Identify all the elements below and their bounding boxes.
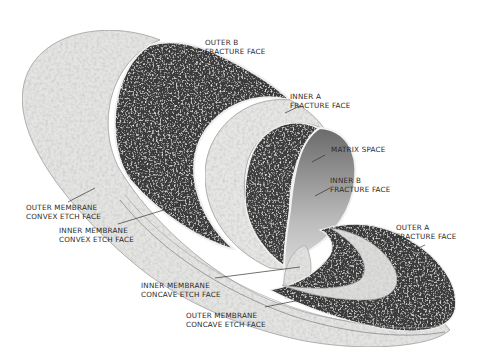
label-line: CONVEX ETCH FACE (26, 212, 101, 221)
label-line: OUTER MEMBRANE (186, 311, 266, 320)
label-inner-membrane-convex-etch-face: INNER MEMBRANE CONVEX ETCH FACE (59, 226, 134, 244)
label-line: CONVEX ETCH FACE (59, 235, 134, 244)
label-line: INNER B (330, 176, 391, 185)
label-line: FRACTURE FACE (290, 101, 351, 110)
label-outer-membrane-concave-etch-face: OUTER MEMBRANE CONCAVE ETCH FACE (186, 311, 266, 329)
label-line: OUTER MEMBRANE (26, 203, 101, 212)
label-line: FRACTURE FACE (330, 185, 391, 194)
label-line: OUTER A (396, 223, 457, 232)
label-line: INNER MEMBRANE (141, 281, 221, 290)
label-line: CONCAVE ETCH FACE (186, 320, 266, 329)
label-matrix-space: MATRIX SPACE (331, 145, 385, 154)
label-line: FRACTURE FACE (396, 232, 457, 241)
label-line: OUTER B (205, 38, 266, 47)
label-line: INNER MEMBRANE (59, 226, 134, 235)
label-outer-a-fracture-face: OUTER A FRACTURE FACE (396, 223, 457, 241)
label-inner-a-fracture-face: INNER A FRACTURE FACE (290, 92, 351, 110)
label-line: CONCAVE ETCH FACE (141, 290, 221, 299)
label-line: INNER A (290, 92, 351, 101)
label-line: MATRIX SPACE (331, 145, 385, 154)
label-line: FRACTURE FACE (205, 47, 266, 56)
label-outer-b-fracture-face: OUTER B FRACTURE FACE (205, 38, 266, 56)
label-inner-membrane-concave-etch-face: INNER MEMBRANE CONCAVE ETCH FACE (141, 281, 221, 299)
label-outer-membrane-convex-etch-face: OUTER MEMBRANE CONVEX ETCH FACE (26, 203, 101, 221)
label-inner-b-fracture-face: INNER B FRACTURE FACE (330, 176, 391, 194)
